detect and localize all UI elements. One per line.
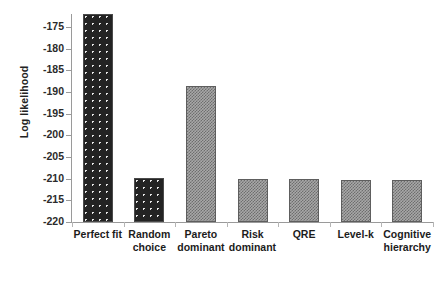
bar [238,179,268,222]
y-axis-tick-label: -215 [4,193,64,205]
y-axis-tick-label: -195 [4,107,64,119]
y-axis-tick-label: -190 [4,85,64,97]
y-axis-tick-label: -220 [4,215,64,227]
x-axis-category-label: Level-k [330,228,382,241]
x-axis-line [71,222,433,223]
x-axis-category-label-line: hierarchy [381,241,433,254]
bar [83,14,113,222]
x-axis-category-label-line: choice [124,241,176,254]
x-axis-category-label-line: dominant [175,241,227,254]
y-axis-tick-label: -205 [4,150,64,162]
bar [289,179,319,222]
x-axis-tick [72,222,73,227]
x-axis-category-label: QRE [278,228,330,241]
x-axis-tick [433,222,434,227]
x-axis-tick [227,222,228,227]
x-axis-tick [175,222,176,227]
x-axis-category-label-line: dominant [227,241,279,254]
plot-area [72,14,433,222]
x-axis-category-label-line: Risk [227,228,279,241]
x-axis-category-label-line: Pareto [175,228,227,241]
x-axis-category-label: Paretodominant [175,228,227,253]
x-axis-tick [330,222,331,227]
x-axis-category-label-line: QRE [278,228,330,241]
x-axis-tick [381,222,382,227]
x-axis-category-label: Perfect fit [72,228,124,241]
bar [392,180,422,222]
bar [341,180,371,222]
y-axis-tick-label: -175 [4,20,64,32]
x-axis-category-label: Cognitivehierarchy [381,228,433,253]
x-axis-category-label-line: Level-k [330,228,382,241]
x-axis-category-label-line: Cognitive [381,228,433,241]
x-axis-category-label: Riskdominant [227,228,279,253]
y-axis-tick-label: -180 [4,42,64,54]
x-axis-tick [124,222,125,227]
y-axis-tick-label: -185 [4,63,64,75]
x-axis-category-label-line: Perfect fit [72,228,124,241]
y-axis-tick-label: -210 [4,172,64,184]
bar-chart-figure: Log likelihood -175-180-185-190-195-200-… [0,0,443,283]
bar [186,86,216,223]
bar [134,178,164,222]
x-axis-category-label-line: Random [124,228,176,241]
x-axis-tick [278,222,279,227]
x-axis-category-label: Randomchoice [124,228,176,253]
y-axis-tick-label: -200 [4,128,64,140]
